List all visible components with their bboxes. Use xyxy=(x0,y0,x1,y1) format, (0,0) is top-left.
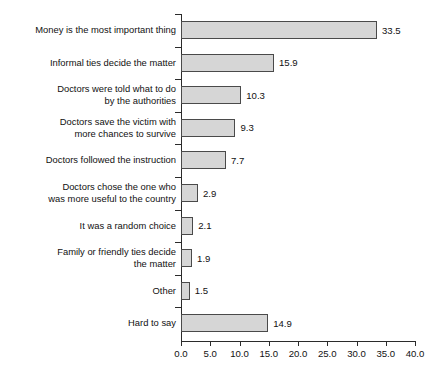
category-label: Doctors chose the one whowas more useful… xyxy=(0,177,176,209)
bar xyxy=(181,151,226,169)
category-label: Doctors save the victim withmore chances… xyxy=(0,112,176,144)
category-label: Doctors were told what to doby the autho… xyxy=(0,79,176,111)
bar-chart: Money is the most important thing33.5Inf… xyxy=(0,0,440,379)
bar xyxy=(181,282,190,300)
bar xyxy=(181,21,377,39)
x-axis-tick-label: 5.0 xyxy=(204,348,217,359)
chart-row: Doctors followed the instruction7.7 xyxy=(0,144,440,176)
bar-value-label: 1.5 xyxy=(195,282,208,300)
category-label: Family or friendly ties decidethe matter xyxy=(0,242,176,274)
category-label-line: Doctors were told what to do xyxy=(57,83,176,95)
chart-row: Doctors chose the one whowas more useful… xyxy=(0,177,440,209)
x-axis-tick-mark xyxy=(298,341,299,346)
chart-row: It was a random choice2.1 xyxy=(0,210,440,242)
category-label: Doctors followed the instruction xyxy=(0,144,176,176)
x-axis-tick-mark xyxy=(415,341,416,346)
bar-value-label: 1.9 xyxy=(197,249,210,267)
category-label-line: Informal ties decide the matter xyxy=(50,57,176,69)
bar-value-label: 10.3 xyxy=(246,86,265,104)
x-axis-tick-label: 0.0 xyxy=(174,348,187,359)
bar xyxy=(181,184,198,202)
x-axis-tick-label: 20.0 xyxy=(289,348,308,359)
chart-row: Hard to say14.9 xyxy=(0,307,440,339)
x-axis-tick-mark xyxy=(240,341,241,346)
x-axis-tick-mark xyxy=(269,341,270,346)
category-label-line: Doctors followed the instruction xyxy=(46,154,176,166)
bar-value-label: 15.9 xyxy=(279,54,298,72)
category-label: Hard to say xyxy=(0,307,176,339)
bar xyxy=(181,119,235,137)
chart-row: Money is the most important thing33.5 xyxy=(0,14,440,46)
bar-value-label: 14.9 xyxy=(273,314,292,332)
x-axis-tick-label: 10.0 xyxy=(230,348,249,359)
category-label-line: more chances to survive xyxy=(74,128,176,140)
bar xyxy=(181,249,192,267)
chart-row: Doctors were told what to doby the autho… xyxy=(0,79,440,111)
x-axis-tick-label: 35.0 xyxy=(376,348,395,359)
x-axis-tick-label: 30.0 xyxy=(347,348,366,359)
bar-value-label: 2.1 xyxy=(198,217,211,235)
x-axis-tick-label: 15.0 xyxy=(259,348,278,359)
x-axis-tick-mark xyxy=(327,341,328,346)
bar-value-label: 7.7 xyxy=(231,151,244,169)
chart-row: Family or friendly ties decidethe matter… xyxy=(0,242,440,274)
chart-row: Informal ties decide the matter15.9 xyxy=(0,47,440,79)
bar xyxy=(181,314,268,332)
category-label-line: Family or friendly ties decide xyxy=(57,246,176,258)
category-label-line: Doctors save the victim with xyxy=(60,116,176,128)
bar xyxy=(181,217,193,235)
x-axis-tick-mark xyxy=(210,341,211,346)
category-label: Informal ties decide the matter xyxy=(0,47,176,79)
x-axis-tick-mark xyxy=(357,341,358,346)
x-axis-tick-mark xyxy=(181,341,182,346)
category-label-line: the matter xyxy=(134,258,176,270)
category-label: Other xyxy=(0,275,176,307)
category-label-line: Hard to say xyxy=(128,317,176,329)
category-label-line: It was a random choice xyxy=(80,220,176,232)
category-label-line: was more useful to the country xyxy=(48,193,176,205)
category-label-line: Other xyxy=(153,285,176,297)
category-label: Money is the most important thing xyxy=(0,14,176,46)
bar-value-label: 33.5 xyxy=(382,21,401,39)
category-label-line: by the authorities xyxy=(105,95,176,107)
chart-row: Doctors save the victim withmore chances… xyxy=(0,112,440,144)
bar-value-label: 2.9 xyxy=(203,184,216,202)
bar xyxy=(181,86,241,104)
bar-value-label: 9.3 xyxy=(240,119,253,137)
x-axis-tick-label: 25.0 xyxy=(318,348,337,359)
category-label: It was a random choice xyxy=(0,210,176,242)
bar xyxy=(181,54,274,72)
chart-row: Other1.5 xyxy=(0,275,440,307)
x-axis-tick-label: 40.0 xyxy=(406,348,425,359)
category-label-line: Money is the most important thing xyxy=(35,24,176,36)
x-axis-tick-mark xyxy=(386,341,387,346)
category-label-line: Doctors chose the one who xyxy=(62,181,176,193)
